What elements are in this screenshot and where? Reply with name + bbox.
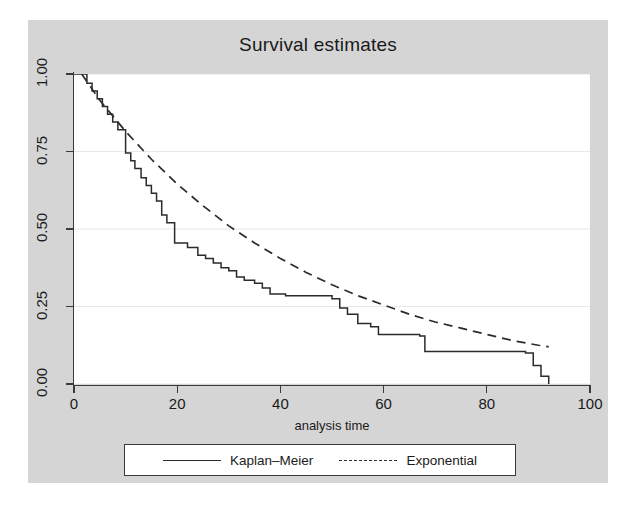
legend-label-kaplan-meier: Kaplan–Meier <box>230 453 313 468</box>
y-tick-label-3: 0.75 <box>33 127 50 173</box>
y-tick-label-0: 0.00 <box>33 360 50 406</box>
x-tick-2 <box>280 386 281 393</box>
x-tick-label-1: 20 <box>154 395 200 412</box>
x-axis-title: analysis time <box>74 418 590 433</box>
dashed-line-icon <box>339 460 397 461</box>
solid-line-icon <box>163 460 221 461</box>
x-tick-label-2: 40 <box>257 395 303 412</box>
plot-svg <box>74 74 590 384</box>
plot-area <box>74 74 590 384</box>
y-tick-label-4: 1.00 <box>33 50 50 96</box>
series-path-exponential <box>82 74 549 347</box>
x-tick-5 <box>589 386 590 393</box>
y-tick-4 <box>66 73 73 74</box>
chart-title: Survival estimates <box>28 34 608 56</box>
chart-legend: Kaplan–Meier Exponential <box>124 444 516 476</box>
y-tick-0 <box>66 383 73 384</box>
legend-item-exponential: Exponential <box>339 453 477 468</box>
legend-label-exponential: Exponential <box>406 453 477 468</box>
x-axis-line <box>73 385 591 386</box>
x-tick-label-3: 60 <box>361 395 407 412</box>
x-tick-label-5: 100 <box>567 395 613 412</box>
x-tick-3 <box>383 386 384 393</box>
x-tick-label-0: 0 <box>51 395 97 412</box>
y-tick-1 <box>66 306 73 307</box>
y-tick-2 <box>66 228 73 229</box>
y-tick-3 <box>66 151 73 152</box>
y-axis-line <box>73 72 74 386</box>
y-tick-label-1: 0.25 <box>33 282 50 328</box>
legend-item-kaplan-meier: Kaplan–Meier <box>163 453 313 468</box>
x-tick-0 <box>73 386 74 393</box>
chart-page: Survival estimates 0.000.250.500.751.00 … <box>0 0 626 508</box>
x-tick-label-4: 80 <box>464 395 510 412</box>
y-tick-label-2: 0.50 <box>33 205 50 251</box>
graph-region: Survival estimates 0.000.250.500.751.00 … <box>28 20 608 483</box>
gridlines <box>74 74 590 384</box>
x-tick-4 <box>486 386 487 393</box>
x-tick-1 <box>177 386 178 393</box>
